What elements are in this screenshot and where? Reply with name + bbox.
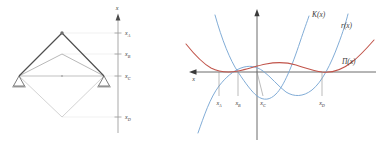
vertical-axis (254, 9, 259, 140)
left-support-triangle (13, 76, 24, 86)
figure-container: x xA xB xC xD x (0, 0, 379, 145)
arch-members-d (19, 76, 104, 117)
arch-configuration-d (19, 76, 104, 117)
apex-node-c (61, 75, 63, 77)
vertical-axis-label: x (115, 4, 119, 11)
left-support (12, 76, 26, 87)
curves-panel: x xA xB xC xD (186, 0, 379, 145)
vertical-x-axis: x xA xB xC xD (115, 4, 131, 133)
horizontal-axis-label: x (191, 75, 195, 82)
drop-line-c (257, 72, 263, 96)
right-support (97, 76, 111, 87)
tick-label-b: xB (124, 51, 131, 59)
vertical-axis-arrowhead (116, 14, 121, 21)
x-tick-label-c: xC (259, 100, 266, 108)
right-support-triangle (98, 76, 109, 86)
curve-label-r: r(x) (341, 21, 353, 30)
drop-lines (219, 72, 322, 96)
horizontal-x-axis: x (189, 69, 376, 81)
x-tick-label-b: xB (234, 100, 241, 108)
x-tick-label-d: xD (318, 100, 325, 108)
curve-label-pi: Π(x) (341, 57, 356, 66)
arch-mechanism-svg: x xA xB xC xD (0, 0, 188, 145)
arch-configuration-c (19, 75, 104, 77)
vertical-axis-arrowhead (254, 9, 259, 16)
tick-label-a: xA (124, 30, 131, 38)
arch-configuration-b (19, 54, 104, 76)
arch-members-b (19, 54, 104, 76)
arch-mechanism-panel: x xA xB xC xD (0, 0, 188, 145)
tick-label-c: xC (124, 73, 131, 81)
x-tick-label-a: xA (215, 100, 222, 108)
tick-label-d: xD (124, 114, 131, 122)
apex-node-a (60, 31, 63, 34)
curve-label-k: K(x) (311, 10, 326, 19)
curves-svg: x xA xB xC xD (186, 0, 379, 145)
curve-k (215, 15, 309, 99)
